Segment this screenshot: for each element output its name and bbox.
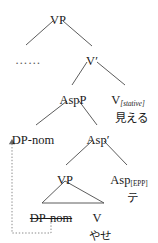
node-asp-epp: Asp[EPP] [110, 174, 147, 188]
node-asp-bar-label: Asp [87, 133, 107, 147]
prime-mark: ′ [95, 54, 98, 68]
node-yase: やせ [89, 231, 111, 243]
node-v-stative: V[stative] [111, 94, 144, 108]
node-ellipsis: …… [15, 54, 41, 67]
node-mieru: 見える [115, 113, 148, 125]
v-bar-to-aspp [72, 62, 87, 85]
node-te: テ [127, 193, 138, 205]
node-dp-nom-upper: DP-nom [12, 134, 54, 147]
v-bar-to-v-stative [97, 62, 125, 85]
syntax-tree-diagram: VP …… V′ AspP V[stative] 見える DP-nom Asp′… [0, 0, 158, 243]
node-vp-top: VP [50, 14, 66, 27]
node-vp-lower: VP [57, 174, 73, 187]
epp-subscript: [EPP] [130, 180, 147, 188]
node-v-bar-label: V [86, 54, 95, 68]
node-v-lower: V [92, 212, 101, 225]
node-asp-epp-label: Asp [110, 173, 130, 187]
prime-mark: ′ [107, 133, 110, 147]
node-aspp: AspP [59, 94, 86, 107]
node-dp-nom-trace: DP-nom [30, 212, 72, 225]
vp-top-to-ellipsis [26, 21, 53, 45]
vp-top-to-v-bar [63, 21, 92, 46]
stative-subscript: [stative] [120, 100, 144, 108]
node-v-bar: V′ [86, 55, 98, 68]
node-v-stative-label: V [111, 93, 120, 107]
node-asp-bar: Asp′ [87, 134, 110, 147]
